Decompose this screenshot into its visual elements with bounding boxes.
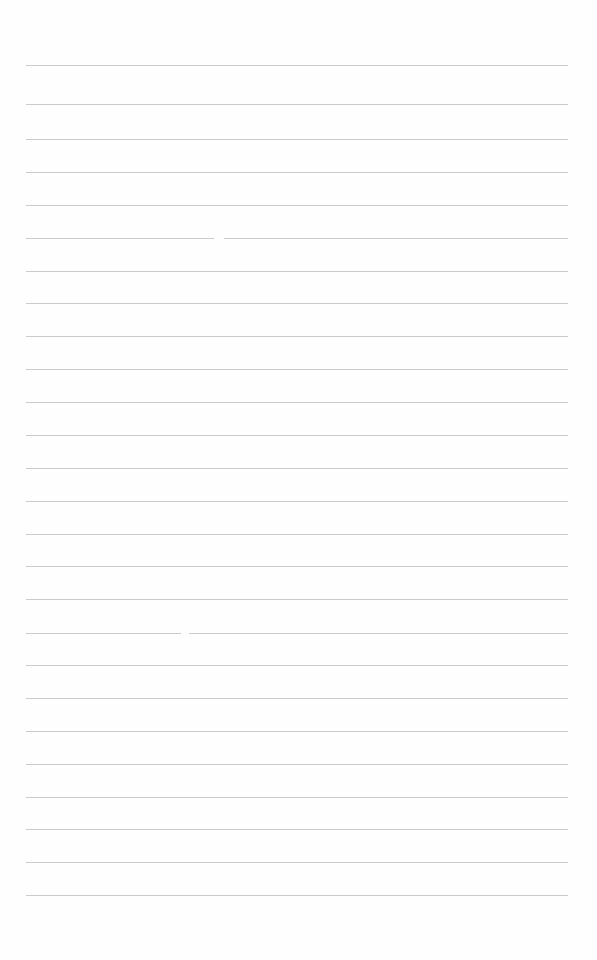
ruled-line bbox=[26, 271, 568, 272]
ruled-line bbox=[26, 402, 568, 403]
ruled-line bbox=[26, 895, 568, 896]
ruled-line bbox=[26, 501, 568, 502]
ruled-line bbox=[26, 698, 568, 699]
ruled-line bbox=[26, 534, 568, 535]
ruled-line bbox=[26, 336, 568, 337]
ruled-line bbox=[26, 139, 568, 140]
ruled-line bbox=[26, 665, 568, 666]
ruled-line bbox=[26, 303, 568, 304]
line-gap bbox=[181, 633, 189, 634]
ruled-line bbox=[26, 104, 568, 105]
ruled-line bbox=[26, 731, 568, 732]
ruled-line bbox=[26, 205, 568, 206]
ruled-line bbox=[26, 599, 568, 600]
ruled-line bbox=[26, 369, 568, 370]
ruled-line bbox=[26, 238, 568, 239]
ruled-line bbox=[26, 829, 568, 830]
ruled-line bbox=[26, 797, 568, 798]
ruled-line bbox=[26, 764, 568, 765]
ruled-line bbox=[26, 172, 568, 173]
line-gap bbox=[214, 238, 224, 239]
lined-paper-page bbox=[0, 0, 597, 960]
ruled-line bbox=[26, 862, 568, 863]
ruled-line bbox=[26, 65, 568, 66]
ruled-line bbox=[26, 633, 568, 634]
ruled-line bbox=[26, 435, 568, 436]
ruled-line bbox=[26, 468, 568, 469]
ruled-line bbox=[26, 566, 568, 567]
